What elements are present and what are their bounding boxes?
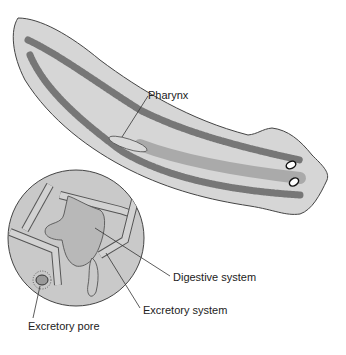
planarian-diagram: [0, 0, 346, 355]
label-excretory-system: Excretory system: [143, 304, 227, 316]
label-pharynx: Pharynx: [148, 89, 188, 101]
excretory-pore: [36, 275, 48, 285]
inset-magnified-view: [8, 170, 144, 306]
label-excretory-pore: Excretory pore: [28, 320, 100, 332]
label-digestive-system: Digestive system: [173, 271, 256, 283]
